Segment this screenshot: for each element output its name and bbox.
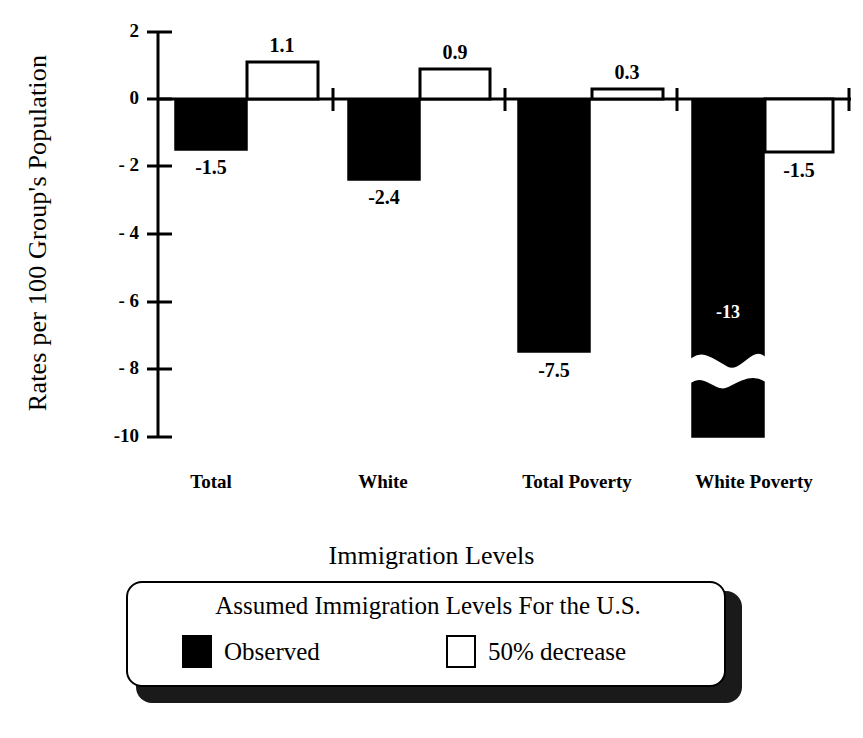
category-label-total-poverty: Total Poverty: [522, 471, 632, 492]
legend-entry-observed: Observed: [182, 635, 320, 668]
legend-label-decrease: 50% decrease: [488, 639, 626, 664]
category-label-total: Total: [190, 471, 232, 492]
category-label-white-poverty: White Poverty: [695, 471, 813, 492]
legend: Assumed Immigration Levels For the U.S. …: [126, 581, 742, 703]
y-tick-label-neg8: - 8: [118, 357, 139, 378]
y-tick-label-neg6: - 6: [118, 290, 139, 311]
y-tick-label-2: 2: [130, 20, 140, 41]
value-label-total-poverty-observed: -7.5: [538, 359, 570, 381]
bar-white-poverty-observed-lower: [692, 379, 764, 437]
bar-total-poverty-observed: [518, 99, 590, 352]
value-label-total-observed: -1.5: [195, 156, 227, 178]
bar-white-poverty-observed-upper: [692, 99, 764, 367]
y-tick-label-neg10: -10: [114, 425, 139, 446]
bar-total-observed: [175, 99, 247, 150]
legend-label-observed: Observed: [224, 639, 320, 664]
legend-title: Assumed Immigration Levels For the U.S.: [128, 592, 728, 620]
value-label-white-decrease: 0.9: [443, 41, 468, 63]
legend-swatch-observed-icon: [182, 635, 212, 668]
x-axis-title: Immigration Levels: [0, 541, 863, 571]
bar-white-poverty-decrease: [765, 99, 833, 152]
legend-box: Assumed Immigration Levels For the U.S. …: [126, 581, 726, 687]
bar-total-poverty-decrease: [592, 89, 663, 99]
value-label-white-poverty-observed: -13: [716, 302, 740, 322]
y-axis-title: Rates per 100 Group's Population: [23, 23, 53, 443]
legend-entry-decrease: 50% decrease: [446, 635, 626, 668]
value-label-total-poverty-decrease: 0.3: [615, 61, 640, 83]
category-label-white: White: [358, 471, 408, 492]
legend-swatch-decrease-icon: [446, 635, 476, 668]
value-label-white-poverty-decrease: -1.5: [783, 159, 815, 181]
bar-white-decrease: [420, 69, 490, 99]
y-tick-label-neg2: - 2: [118, 154, 139, 175]
y-tick-label-0: 0: [130, 87, 140, 108]
bar-total-decrease: [247, 62, 318, 99]
chart-figure: 2 0 - 2 - 4 - 6 - 8 -10 -1.5 1.1 -2.4 0.…: [0, 0, 863, 738]
bar-white-observed: [348, 99, 420, 180]
y-tick-label-neg4: - 4: [118, 222, 139, 243]
value-label-white-observed: -2.4: [368, 186, 400, 208]
value-label-total-decrease: 1.1: [270, 34, 295, 56]
